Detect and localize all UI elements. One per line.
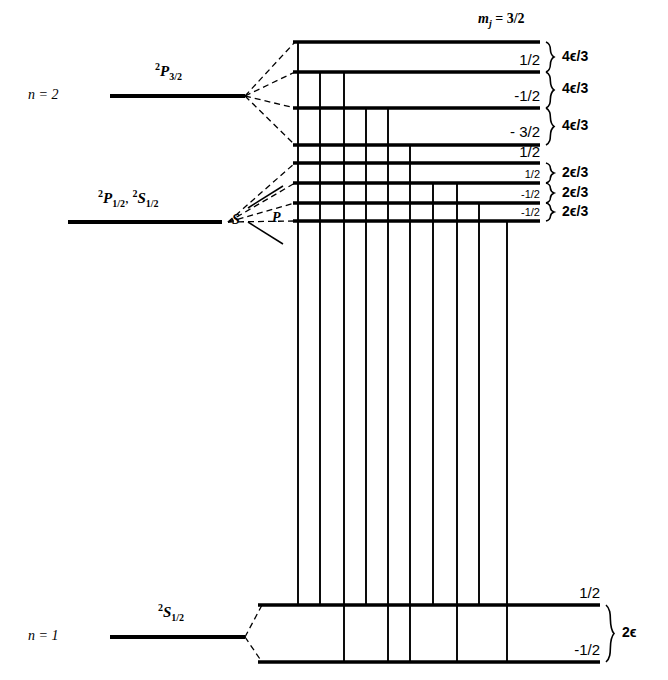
mj-value-g1: 1/2: [480, 585, 600, 600]
term-2p32-j: 3/2: [169, 71, 182, 82]
mj-value-u4: - 3/2: [420, 124, 540, 139]
energy-level-diagram: [0, 0, 668, 680]
brace-b7: [606, 605, 614, 662]
dashed-connector-upper-1: [245, 72, 295, 96]
n2-label: n = 2: [28, 88, 58, 102]
figure-canvas: n = 2 2P3/2 2P1/2, 2S1/2 n = 1 2S1/2 S P…: [0, 0, 668, 680]
splitting-label-b7: 2ϵ: [622, 625, 637, 639]
fork-stroke-lower: [248, 222, 283, 244]
dashed-connector-upper-0: [245, 42, 295, 96]
splitting-label-b2: 4ϵ/3: [562, 81, 588, 95]
brace-b2: [546, 72, 554, 108]
brace-b3: [546, 108, 554, 145]
term-2s12u-j: 1/2: [146, 198, 159, 209]
mj-value-u7: -1/2: [420, 189, 540, 200]
fork-label-s: S: [232, 213, 240, 227]
mj-value-u5: 1/2: [420, 144, 540, 159]
term-separator-comma: ,: [125, 190, 129, 206]
term-symbol-2s12-ground: 2S1/2: [158, 603, 184, 623]
term-2p32-letter: P: [160, 63, 169, 79]
splitting-label-b3: 4ϵ/3: [562, 118, 588, 132]
term-symbol-2p32: 2P3/2: [155, 62, 182, 82]
fork-stroke-upper: [248, 186, 283, 208]
splitting-label-b6: 2ϵ/3: [562, 204, 588, 218]
n1-label: n = 1: [28, 629, 58, 643]
fork-label-p: P: [272, 211, 281, 225]
brace-b4: [546, 163, 554, 183]
brace-b6: [546, 203, 554, 221]
base-level-group: [68, 96, 245, 637]
dashed-connector-ground-0: [245, 605, 262, 637]
term-symbol-2p12-2s12: 2P1/2, 2S1/2: [98, 189, 159, 209]
mj-value-u2: 1/2: [420, 52, 540, 67]
splitting-label-b1: 4ϵ/3: [562, 49, 588, 63]
dashed-connector-upper-3: [245, 96, 295, 145]
dashed-connector-upper-2: [245, 96, 295, 108]
splitting-label-b5: 2ϵ/3: [562, 185, 588, 199]
brace-group: [546, 42, 614, 662]
mj-value-u3: -1/2: [420, 88, 540, 103]
term-2p12-letter: P: [103, 190, 112, 206]
term-2p12-j: 1/2: [112, 198, 125, 209]
mj-symbol-m: m: [478, 11, 489, 26]
mj-header-value: = 3/2: [492, 11, 525, 26]
mj-value-g2: -1/2: [480, 642, 600, 657]
term-2s12g-j: 1/2: [171, 612, 184, 623]
dashed-connector-ground-1: [245, 637, 262, 662]
dashed-connector-group: [228, 42, 295, 662]
brace-b5: [546, 183, 554, 203]
mj-value-u6: 1/2: [420, 169, 540, 180]
splitting-label-b4: 2ϵ/3: [562, 165, 588, 179]
brace-b1: [546, 42, 554, 72]
mj-value-u8: -1/2: [420, 207, 540, 218]
term-2s12u-letter: S: [137, 190, 145, 206]
mj-header-label: mj = 3/2: [478, 12, 525, 29]
